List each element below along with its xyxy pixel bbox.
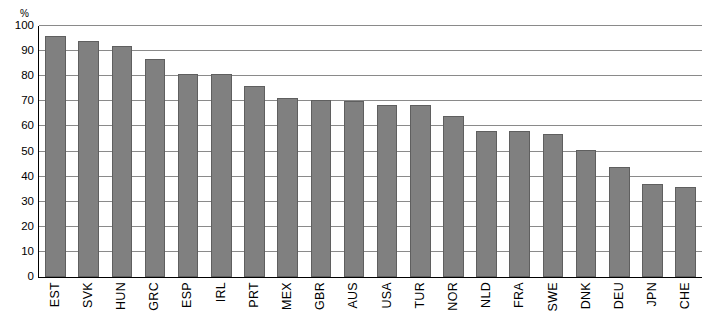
x-tick-label-tur: TUR — [413, 282, 427, 309]
x-tick-label-jpn: JPN — [645, 282, 659, 307]
bar-slot — [138, 26, 171, 277]
bar-swe — [543, 134, 564, 277]
x-tick-label-esp: ESP — [180, 282, 194, 308]
bar-slot — [172, 26, 205, 277]
bar-gbr — [311, 100, 332, 277]
bar-deu — [609, 167, 630, 277]
bar-slot — [238, 26, 271, 277]
y-tick-label: 0 — [28, 270, 34, 282]
y-tick-label: 40 — [21, 170, 34, 182]
x-label-slot: GRC — [138, 280, 171, 334]
x-tick-label-deu: DEU — [612, 282, 626, 309]
bar-slot — [337, 26, 370, 277]
bar-svk — [78, 41, 99, 277]
bar-slot — [603, 26, 636, 277]
x-tick-label-swe: SWE — [546, 282, 560, 311]
bar-slot — [669, 26, 702, 277]
x-label-slot: TUR — [403, 280, 436, 334]
y-tick-label: 10 — [21, 245, 34, 257]
x-tick-label-nor: NOR — [446, 282, 460, 311]
bar-nld — [476, 131, 497, 277]
bar-slot — [536, 26, 569, 277]
x-label-slot: HUN — [104, 280, 137, 334]
bar-series — [39, 26, 702, 277]
x-label-slot: EST — [38, 280, 71, 334]
x-tick-label-usa: USA — [380, 282, 394, 309]
x-label-slot: FRA — [503, 280, 536, 334]
x-tick-label-grc: GRC — [147, 282, 161, 311]
x-tick-label-nld: NLD — [479, 282, 493, 308]
bar-slot — [636, 26, 669, 277]
x-tick-label-hun: HUN — [114, 282, 128, 310]
bar-est — [45, 36, 66, 277]
x-label-slot: DNK — [569, 280, 602, 334]
x-label-slot: IRL — [204, 280, 237, 334]
x-tick-label-irl: IRL — [214, 282, 228, 302]
bar-dnk — [576, 150, 597, 277]
x-label-slot: ESP — [171, 280, 204, 334]
bar-slot — [470, 26, 503, 277]
bar-mex — [277, 98, 298, 277]
x-axis-labels: ESTSVKHUNGRCESPIRLPRTMEXGBRAUSUSATURNORN… — [38, 280, 702, 334]
bar-slot — [503, 26, 536, 277]
y-tick-label: 100 — [15, 19, 34, 31]
y-tick-label: 90 — [21, 44, 34, 56]
bar-fra — [509, 131, 530, 277]
bar-usa — [377, 105, 398, 277]
bar-che — [675, 187, 696, 277]
chart-title-strip — [0, 0, 709, 8]
plot-area: 0102030405060708090100 — [38, 26, 702, 278]
bar-slot — [371, 26, 404, 277]
y-tick-label: 30 — [21, 195, 34, 207]
y-tick-label: 60 — [21, 119, 34, 131]
x-label-slot: NOR — [436, 280, 469, 334]
bar-esp — [178, 74, 199, 277]
bar-slot — [105, 26, 138, 277]
bar-tur — [410, 105, 431, 277]
x-label-slot: DEU — [602, 280, 635, 334]
x-tick-label-aus: AUS — [346, 282, 360, 309]
bar-nor — [443, 116, 464, 277]
y-tick-label: 70 — [21, 94, 34, 106]
x-tick-label-dnk: DNK — [579, 282, 593, 309]
bar-slot — [39, 26, 72, 277]
bar-jpn — [642, 184, 663, 277]
x-label-slot: JPN — [636, 280, 669, 334]
y-axis-unit-label: % — [20, 8, 29, 19]
bar-chart: % 0102030405060708090100 ESTSVKHUNGRCESP… — [0, 0, 709, 336]
bar-slot — [570, 26, 603, 277]
x-tick-label-prt: PRT — [247, 282, 261, 308]
y-tick-label: 80 — [21, 69, 34, 81]
bar-slot — [271, 26, 304, 277]
x-tick-label-gbr: GBR — [313, 282, 327, 310]
bar-slot — [437, 26, 470, 277]
x-label-slot: MEX — [270, 280, 303, 334]
bar-prt — [244, 86, 265, 277]
bar-slot — [404, 26, 437, 277]
x-label-slot: PRT — [237, 280, 270, 334]
y-tick-label: 50 — [21, 145, 34, 157]
bar-irl — [211, 74, 232, 277]
x-tick-label-che: CHE — [678, 282, 692, 309]
bar-slot — [205, 26, 238, 277]
bar-grc — [145, 59, 166, 277]
y-tick-label: 20 — [21, 220, 34, 232]
bar-slot — [304, 26, 337, 277]
x-label-slot: USA — [370, 280, 403, 334]
x-tick-label-fra: FRA — [512, 282, 526, 308]
x-tick-label-svk: SVK — [81, 282, 95, 308]
x-label-slot: SVK — [71, 280, 104, 334]
x-tick-label-mex: MEX — [280, 282, 294, 310]
x-label-slot: SWE — [536, 280, 569, 334]
x-label-slot: NLD — [470, 280, 503, 334]
bar-hun — [112, 46, 133, 277]
x-label-slot: AUS — [337, 280, 370, 334]
bar-aus — [344, 101, 365, 277]
x-label-slot: CHE — [669, 280, 702, 334]
x-tick-label-est: EST — [48, 282, 62, 307]
x-label-slot: GBR — [304, 280, 337, 334]
bar-slot — [72, 26, 105, 277]
